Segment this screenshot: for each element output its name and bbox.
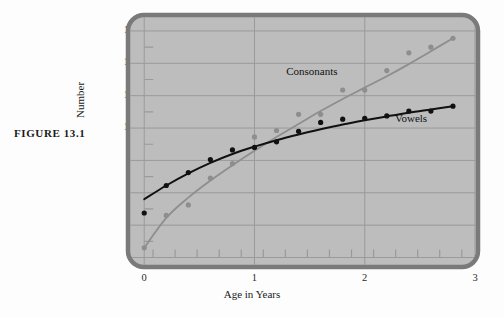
data-point	[450, 104, 455, 109]
data-point	[340, 87, 345, 92]
figure-caption: FIGURE 13.1	[14, 127, 110, 139]
data-point	[384, 113, 389, 118]
data-point	[252, 134, 257, 139]
data-point	[230, 147, 235, 152]
plot-background	[128, 15, 478, 267]
data-point	[450, 36, 455, 41]
data-point	[186, 170, 191, 175]
data-point	[230, 161, 235, 166]
data-point	[296, 112, 301, 117]
x-tick-label: 3	[463, 272, 487, 283]
data-point	[340, 117, 345, 122]
chart-canvas: ConsonantsVowels	[125, 12, 481, 270]
data-point	[274, 139, 279, 144]
plot-panel: ConsonantsVowels	[125, 12, 481, 270]
data-point	[252, 145, 257, 150]
y-axis-title: Number	[74, 82, 86, 118]
x-tick-label: 2	[353, 272, 377, 283]
data-point	[208, 157, 213, 162]
annotation-consonants: Consonants	[286, 65, 337, 77]
figure-root: FIGURE 13.1 Number Age in Years 24681012…	[0, 0, 504, 317]
annotation-vowels: Vowels	[395, 112, 427, 124]
data-point	[208, 176, 213, 181]
x-tick-label: 0	[132, 272, 156, 283]
data-point	[384, 68, 389, 73]
data-point	[186, 202, 191, 207]
x-axis-title: Age in Years	[0, 288, 504, 300]
data-point	[164, 183, 169, 188]
data-point	[318, 112, 323, 117]
x-tick-label: 1	[242, 272, 266, 283]
data-point	[428, 108, 433, 113]
data-point	[428, 45, 433, 50]
data-point	[274, 128, 279, 133]
data-point	[142, 245, 147, 250]
data-point	[362, 116, 367, 121]
data-point	[406, 50, 411, 55]
data-point	[362, 87, 367, 92]
data-point	[296, 129, 301, 134]
data-point	[164, 213, 169, 218]
data-point	[318, 120, 323, 125]
data-point	[142, 210, 147, 215]
